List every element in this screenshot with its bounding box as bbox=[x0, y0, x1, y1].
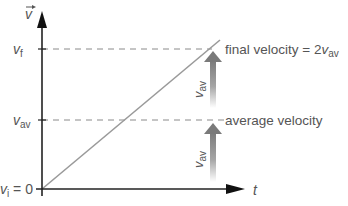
vav-label: vav bbox=[13, 112, 31, 130]
upper-vav-arrow bbox=[204, 51, 222, 108]
y-axis-arrowhead bbox=[37, 11, 47, 28]
x-axis-label: t bbox=[253, 182, 258, 198]
final-velocity-annotation: final velocity = 2vav bbox=[225, 42, 339, 59]
vf-label: vf bbox=[13, 41, 23, 59]
vi-label: vi = 0 bbox=[0, 181, 33, 199]
x-axis-arrowhead bbox=[226, 184, 245, 194]
lower-arrow-label: vav bbox=[191, 151, 208, 168]
average-velocity-annotation: average velocity bbox=[225, 113, 323, 128]
velocity-time-graph: v t vf vav vi = 0 final velocity = 2vav … bbox=[0, 0, 348, 206]
svg-text:v: v bbox=[25, 6, 33, 22]
y-axis-label: v bbox=[25, 5, 36, 22]
upper-arrow-label: vav bbox=[191, 81, 208, 98]
